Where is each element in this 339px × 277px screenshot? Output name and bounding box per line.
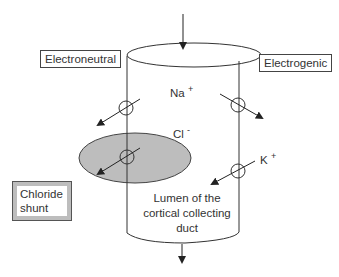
chloride-shunt-ellipse [79,133,191,183]
potassium-label: K + [260,151,276,166]
sodium-label: Na + [170,84,193,99]
chloride-text: Cl [173,128,184,140]
lumen-line2: cortical collecting [132,206,242,221]
electroneutral-label: Electroneutral [40,50,121,68]
lumen-label: Lumen of the cortical collecting duct [132,191,242,236]
chloride-charge: - [187,125,190,135]
lumen-line3: duct [132,221,242,236]
sodium-text: Na [170,87,185,99]
chloride-shunt-label: Chloride shunt [12,181,72,221]
chloride-shunt-line1: Chloride [20,187,64,201]
sodium-channel-icon [231,98,245,112]
chloride-shunt-line2: shunt [20,201,64,215]
electrogenic-label: Electrogenic [259,54,332,72]
lumen-line1: Lumen of the [132,191,242,206]
potassium-charge: + [271,151,276,161]
potassium-text: K [260,154,268,166]
sodium-charge: + [188,84,193,94]
chloride-label: Cl - [173,125,190,140]
potassium-channel-icon [231,164,245,178]
